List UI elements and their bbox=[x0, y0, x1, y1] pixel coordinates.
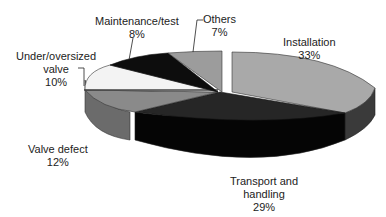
label-transport-handling: Transport andhandling29% bbox=[230, 175, 298, 214]
pie-chart bbox=[0, 0, 386, 217]
label-valve-defect: Valve defect12% bbox=[28, 143, 88, 169]
label-maintenance-test: Maintenance/test8% bbox=[95, 15, 179, 41]
label-others: Others7% bbox=[203, 13, 236, 39]
label-under-oversized: Under/oversizedvalve10% bbox=[16, 50, 96, 89]
label-installation: Installation33% bbox=[283, 36, 336, 62]
